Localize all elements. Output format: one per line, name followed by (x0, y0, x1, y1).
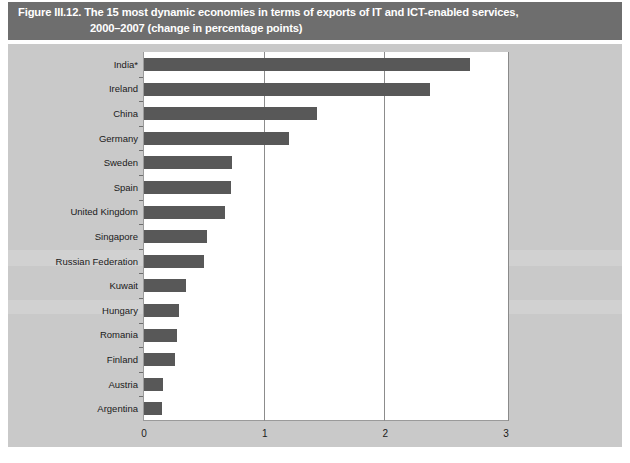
bar-row (143, 298, 509, 323)
bar-row (143, 347, 509, 372)
bar-row (143, 323, 509, 348)
x-tick-label-1: 1 (262, 428, 268, 439)
bar-row (143, 101, 509, 126)
bar-ireland (144, 83, 430, 96)
y-axis-tick (139, 273, 143, 274)
figure-title-line-1: Figure III.12. The 15 most dynamic econo… (18, 6, 518, 18)
bar-germany (144, 132, 289, 145)
bar-india (144, 58, 470, 71)
bar-argentina (144, 402, 162, 415)
y-axis-tick (139, 77, 143, 78)
figure-title-banner: Figure III.12. The 15 most dynamic econo… (8, 2, 622, 40)
x-tick-label-3: 3 (503, 428, 509, 439)
y-axis-tick (139, 347, 143, 348)
y-axis-tick (139, 175, 143, 176)
plot-inner (143, 52, 508, 421)
bar-singapore (144, 230, 207, 243)
bar-row (143, 372, 509, 397)
bar-row (143, 126, 509, 151)
category-label: Argentina (97, 403, 138, 414)
y-axis-tick (139, 200, 143, 201)
bar-united-kingdom (144, 206, 225, 219)
bar-hungary (144, 304, 179, 317)
x-tick-label-0: 0 (141, 428, 147, 439)
bar-row (143, 249, 509, 274)
plot-area (143, 52, 509, 421)
category-label: Russian Federation (56, 256, 138, 267)
category-label: Kuwait (109, 280, 138, 291)
y-axis-tick (139, 372, 143, 373)
y-axis-tick (139, 323, 143, 324)
bar-row (143, 273, 509, 298)
category-label: Singapore (95, 231, 138, 242)
category-label: Germany (99, 133, 138, 144)
bar-row (143, 150, 509, 175)
bar-romania (144, 329, 177, 342)
category-label: Hungary (102, 305, 138, 316)
figure-page: Figure III.12. The 15 most dynamic econo… (0, 0, 630, 463)
source-note (10, 452, 610, 463)
y-axis-tick (139, 249, 143, 250)
bar-spain (144, 181, 231, 194)
figure-title-line-2: 2000–2007 (change in percentage points) (90, 22, 302, 34)
category-label: Austria (108, 379, 138, 390)
category-label: Romania (100, 329, 138, 340)
y-axis-tick (139, 396, 143, 397)
bar-russian-federation (144, 255, 204, 268)
bar-austria (144, 378, 163, 391)
category-label: Ireland (109, 83, 138, 94)
category-label: China (113, 108, 138, 119)
bar-row (143, 77, 509, 102)
category-label: India* (114, 59, 138, 70)
y-axis-tick (139, 298, 143, 299)
bar-row (143, 200, 509, 225)
bar-sweden (144, 156, 232, 169)
bar-row (143, 396, 509, 421)
bar-row (143, 224, 509, 249)
y-axis-tick (139, 101, 143, 102)
bar-row (143, 175, 509, 200)
bar-finland (144, 353, 175, 366)
category-label: Finland (107, 354, 138, 365)
y-axis-tick (139, 126, 143, 127)
y-axis-tick (139, 150, 143, 151)
y-axis-tick (139, 224, 143, 225)
x-tick-label-2: 2 (383, 428, 389, 439)
bar-row (143, 52, 509, 77)
bar-china (144, 107, 317, 120)
category-label: Sweden (104, 157, 138, 168)
bar-kuwait (144, 279, 186, 292)
category-label: United Kingdom (70, 206, 138, 217)
chart-panel: India*IrelandChinaGermanySwedenSpainUnit… (8, 44, 622, 447)
category-label: Spain (114, 182, 138, 193)
